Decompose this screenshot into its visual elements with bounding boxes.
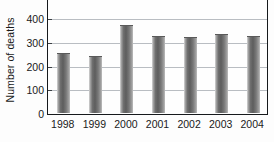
x-axis-tick-label: 2003	[209, 118, 232, 130]
bar	[184, 37, 197, 113]
y-axis-title: Number of deaths	[4, 5, 16, 115]
bar	[152, 36, 165, 113]
plot-area	[47, 0, 268, 115]
bar	[247, 36, 260, 113]
bar	[57, 53, 70, 113]
y-axis-tick-labels: 0100200300400	[16, 0, 44, 142]
x-axis-tick-labels: 1998199920002001200220032004	[47, 118, 268, 140]
x-axis-tick-label: 1998	[51, 118, 74, 130]
x-axis-tick-label: 2002	[177, 118, 200, 130]
x-axis-tick-label: 1999	[83, 118, 106, 130]
y-axis-tick-label: 200	[16, 61, 44, 72]
bar	[120, 25, 133, 113]
x-axis-tick-label: 2004	[241, 118, 264, 130]
y-axis-tick-label: 0	[16, 109, 44, 120]
bars-layer	[48, 0, 267, 114]
y-axis-tick-label: 300	[16, 38, 44, 49]
bar	[89, 56, 102, 113]
y-axis-tick-mark	[48, 114, 52, 115]
y-axis-tick-label: 100	[16, 85, 44, 96]
bar	[215, 34, 228, 113]
x-axis-tick-label: 2000	[114, 118, 137, 130]
bar-chart: Number of deaths 0100200300400 199819992…	[0, 0, 274, 142]
y-axis-tick-label: 400	[16, 14, 44, 25]
x-axis-tick-label: 2001	[146, 118, 169, 130]
